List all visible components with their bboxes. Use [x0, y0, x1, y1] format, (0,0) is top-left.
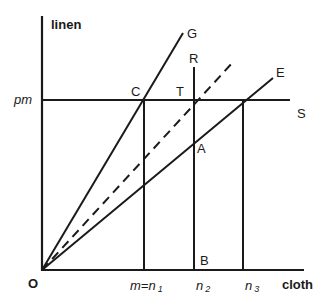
point-A-label: A	[197, 141, 206, 156]
ray-G-label: G	[187, 26, 197, 41]
y-axis-label: linen	[51, 17, 81, 32]
origin-label: O	[28, 276, 38, 291]
point-B-label: B	[200, 253, 209, 268]
tick-n2-label: n2	[196, 278, 210, 294]
point-R-label: R	[189, 51, 198, 66]
point-T-label: T	[176, 84, 184, 99]
point-S-label: S	[297, 106, 306, 121]
trade-diagram: linen cloth O pm C T A B R S G E m=n1 n2…	[0, 0, 326, 301]
ray-E	[42, 78, 273, 270]
x-axis-label: cloth	[282, 277, 313, 292]
pm-label: pm	[13, 92, 32, 107]
point-C-label: C	[131, 84, 140, 99]
ray-G	[42, 33, 183, 270]
tick-n1-label: m=n1	[130, 278, 163, 294]
tick-n3-label: n3	[245, 278, 259, 294]
ray-E-label: E	[276, 65, 285, 80]
